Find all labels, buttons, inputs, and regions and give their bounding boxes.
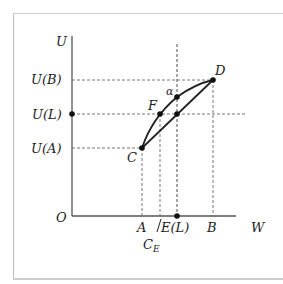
label-f: F bbox=[147, 98, 158, 113]
x-tick-e-l: E(L) bbox=[160, 220, 189, 235]
point-u-l-axis bbox=[69, 111, 75, 117]
utility-wealth-diagram: U W O U(B) U(L) U(A) A E(L) B C E C D F … bbox=[0, 0, 283, 284]
point-f bbox=[157, 111, 163, 117]
point-alpha bbox=[174, 94, 180, 100]
ce-subscript: E bbox=[152, 244, 160, 254]
label-c: C bbox=[127, 150, 137, 165]
label-d: D bbox=[214, 63, 226, 78]
y-tick-u-b: U(B) bbox=[31, 72, 62, 87]
point-e-l-axis bbox=[174, 213, 180, 219]
y-tick-u-l: U(L) bbox=[32, 107, 62, 122]
x-axis-label: W bbox=[251, 220, 266, 235]
point-d bbox=[210, 77, 216, 83]
x-tick-a: A bbox=[136, 220, 146, 235]
point-c bbox=[139, 145, 145, 151]
y-tick-u-a: U(A) bbox=[31, 141, 62, 156]
origin-label: O bbox=[56, 210, 67, 225]
y-axis-label: U bbox=[56, 34, 68, 49]
label-alpha: α bbox=[166, 85, 174, 98]
point-chord-mid bbox=[174, 111, 180, 117]
ce-label: C bbox=[143, 237, 153, 252]
x-tick-b: B bbox=[206, 220, 217, 235]
